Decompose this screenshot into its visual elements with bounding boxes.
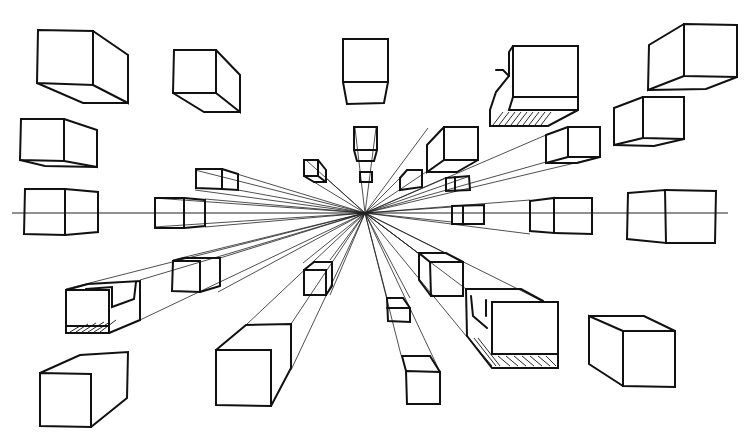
box-right-upper-far bbox=[546, 127, 600, 163]
box-bottom-left-large bbox=[40, 352, 128, 427]
box-right-low-upper bbox=[419, 253, 463, 296]
box-horizon-right-large bbox=[627, 190, 716, 243]
shading-hatch bbox=[470, 338, 556, 366]
box-bottom-right-large bbox=[589, 316, 675, 387]
box-center-column bbox=[354, 127, 377, 182]
box-center-low-right bbox=[387, 298, 410, 322]
box-bottom-center-right bbox=[402, 356, 440, 404]
box-right-mid bbox=[614, 97, 684, 146]
sketch-svg bbox=[0, 0, 756, 441]
box-bottom-center-large bbox=[216, 324, 291, 406]
vanishing-rays bbox=[66, 128, 600, 372]
box-top-center bbox=[343, 39, 388, 104]
box-top-right-large bbox=[648, 24, 737, 90]
box-top-left-mid bbox=[173, 50, 240, 112]
perspective-sketch: One-point perspective box sketch bbox=[0, 0, 756, 441]
box-bottom-right-shaded bbox=[466, 289, 558, 368]
box-center-low-left bbox=[304, 262, 332, 295]
box-horizon-left bbox=[24, 189, 98, 235]
shading-hatch bbox=[493, 112, 551, 125]
box-small-left-upper bbox=[304, 160, 326, 182]
box-right-on-horizon-small bbox=[452, 205, 484, 224]
box-right-on-horizon-mid bbox=[530, 198, 592, 234]
box-left-mid bbox=[20, 119, 97, 167]
box-top-left-large bbox=[37, 30, 128, 103]
box-top-right-shaded bbox=[490, 46, 578, 126]
box-bottom-left-shaded bbox=[66, 281, 140, 333]
